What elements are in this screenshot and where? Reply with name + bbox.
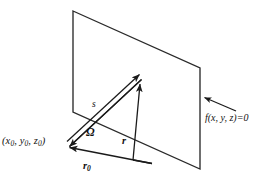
diagram-canvas — [0, 0, 274, 184]
vector-r0-label: r0 — [83, 161, 91, 172]
surface-callout-arrow — [205, 98, 237, 112]
vector-s-label: s — [92, 100, 96, 110]
angle-omega-label: Ω — [86, 127, 95, 139]
surface-plane — [73, 11, 200, 169]
surface-equation-label: f(x, y, z)=0 — [205, 113, 248, 123]
figure-container: (x0, y0, z0) f(x, y, z)=0 s Ω r r0 — [0, 0, 274, 184]
paren-close: ) — [42, 135, 46, 146]
vertex-connector — [133, 160, 152, 164]
vector-r-label: r — [122, 136, 126, 147]
r0-subscript: 0 — [87, 164, 91, 173]
source-point-label: (x0, y0, z0) — [2, 136, 45, 147]
